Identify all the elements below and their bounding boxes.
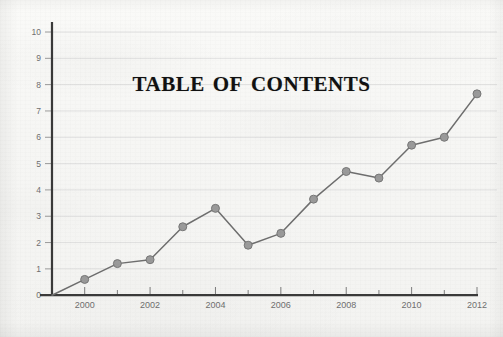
y-axis-tick-label: 6	[36, 132, 41, 142]
data-point-marker	[375, 174, 383, 182]
x-axis-labels-group: 2000200220042006200820102012	[75, 300, 487, 310]
x-axis-tick-label: 2006	[271, 300, 291, 310]
y-axis-tick-label: 7	[36, 106, 41, 116]
data-point-marker	[81, 275, 89, 283]
y-axis-tick-label: 3	[36, 211, 41, 221]
data-point-marker	[211, 204, 219, 212]
x-axis-tick-label: 2004	[205, 300, 225, 310]
y-axis-tick-label: 10	[32, 27, 42, 37]
data-point-marker	[244, 241, 252, 249]
x-axis-tick-label: 2002	[140, 300, 160, 310]
x-axis-tick-label: 2000	[75, 300, 95, 310]
x-axis-ticks-group	[85, 287, 477, 295]
chart-page: 012345678910 200020022004200620082010201…	[0, 0, 503, 337]
data-point-marker	[179, 223, 187, 231]
y-axis-tick-label: 5	[36, 159, 41, 169]
x-axis-tick-label: 2012	[467, 300, 487, 310]
data-point-marker	[440, 133, 448, 141]
data-point-marker	[277, 229, 285, 237]
data-point-marker	[113, 260, 121, 268]
data-point-marker	[310, 195, 318, 203]
data-point-marker	[342, 167, 350, 175]
page-title: Table of Contents	[0, 64, 503, 98]
line-chart: 012345678910 200020022004200620082010201…	[0, 0, 503, 337]
y-axis-tick-label: 1	[36, 264, 41, 274]
x-axis-tick-label: 2008	[336, 300, 356, 310]
data-markers-group	[81, 90, 481, 284]
y-axis-tick-label: 2	[36, 238, 41, 248]
data-point-marker	[408, 141, 416, 149]
data-point-marker	[146, 256, 154, 264]
y-axis-tick-label: 4	[36, 185, 41, 195]
x-axis-tick-label: 2010	[402, 300, 422, 310]
y-axis-tick-label: 9	[36, 53, 41, 63]
